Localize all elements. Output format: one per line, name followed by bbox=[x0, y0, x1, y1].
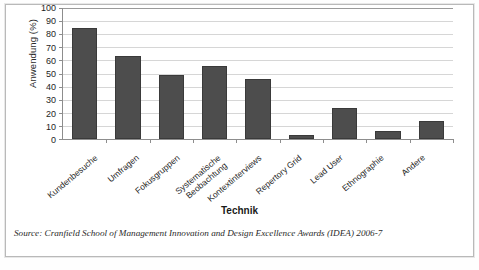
bar[interactable] bbox=[115, 56, 140, 139]
bar-chart: Anwendung (%) 1009080706050403020100 Kun… bbox=[12, 8, 460, 148]
bar[interactable] bbox=[375, 131, 400, 139]
y-axis-tick-mark bbox=[59, 139, 63, 140]
x-axis-tick-mark bbox=[453, 139, 454, 143]
figure: Anwendung (%) 1009080706050403020100 Kun… bbox=[0, 0, 479, 270]
bar-slot bbox=[63, 8, 106, 139]
bar-slot bbox=[366, 8, 409, 139]
y-axis-tick-label: 90 bbox=[46, 16, 56, 26]
x-axis-tick-mark bbox=[410, 139, 411, 143]
bar[interactable] bbox=[72, 28, 97, 139]
bar[interactable] bbox=[332, 108, 357, 139]
x-axis-tick-mark bbox=[366, 139, 367, 143]
y-axis-tick-label: 70 bbox=[46, 43, 56, 53]
y-axis-tick-label: 40 bbox=[46, 82, 56, 92]
bar-slot bbox=[323, 8, 366, 139]
bar[interactable] bbox=[159, 75, 184, 139]
x-axis-tick-mark bbox=[280, 139, 281, 143]
x-axis-tick-mark bbox=[323, 139, 324, 143]
bar-slot bbox=[280, 8, 323, 139]
plot-area bbox=[62, 8, 453, 140]
y-axis-tick-label: 20 bbox=[46, 109, 56, 119]
x-axis-tick-mark bbox=[193, 139, 194, 143]
y-axis-tick-label: 10 bbox=[46, 122, 56, 132]
y-axis-tick-labels: 1009080706050403020100 bbox=[30, 8, 56, 140]
y-axis-tick-label: 50 bbox=[46, 69, 56, 79]
y-axis-tick-label: 80 bbox=[46, 29, 56, 39]
bar-slot bbox=[193, 8, 236, 139]
bar[interactable] bbox=[419, 121, 444, 139]
bar-slot bbox=[236, 8, 279, 139]
y-axis-tick-label: 0 bbox=[51, 135, 56, 145]
bar-slot bbox=[410, 8, 453, 139]
x-axis-tick-mark bbox=[150, 139, 151, 143]
y-axis-tick-label: 60 bbox=[46, 56, 56, 66]
x-label-slot: Andere bbox=[400, 150, 441, 206]
y-axis-tick-label: 30 bbox=[46, 95, 56, 105]
bar[interactable] bbox=[202, 66, 227, 139]
x-axis-title: Technik bbox=[0, 205, 479, 216]
x-axis-tick-mark bbox=[106, 139, 107, 143]
bar-slot bbox=[150, 8, 193, 139]
bar-series bbox=[63, 8, 453, 139]
source-caption: Source: Cranfield School of Management I… bbox=[14, 228, 467, 238]
y-axis-tick-label: 100 bbox=[41, 3, 56, 13]
x-axis-tick-mark bbox=[236, 139, 237, 143]
x-axis-tick-labels: KundenbesucheUmfragenFokusgruppenSystema… bbox=[74, 150, 441, 206]
bar[interactable] bbox=[245, 79, 270, 139]
bar[interactable] bbox=[289, 135, 314, 139]
bar-slot bbox=[106, 8, 149, 139]
x-axis-tick-label: Andere bbox=[399, 152, 427, 177]
x-label-slot: Ethnographie bbox=[359, 150, 400, 206]
